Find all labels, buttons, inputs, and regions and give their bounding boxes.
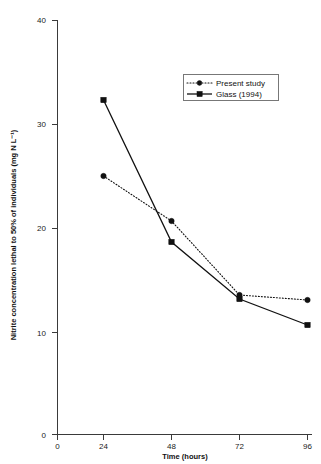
line-chart-canvas: 40 30 20 10 0 0 24 48 72 96 Time (hours)…: [0, 0, 321, 464]
legend-swatch-square-icon: [197, 91, 202, 96]
series-line-present-study: [104, 176, 308, 300]
series-markers-present-study: [101, 173, 310, 302]
y-axis-ticks: [52, 21, 58, 435]
x-axis-title: Time (hours): [162, 452, 208, 461]
legend-label-glass-1994: Glass (1994): [216, 90, 262, 99]
series-markers-glass-1994: [101, 97, 310, 327]
legend-swatch-circle-icon: [197, 81, 202, 86]
legend-label-present-study: Present study: [216, 79, 265, 88]
x-tick-label-0: 0: [55, 442, 60, 451]
y-tick-label-30: 30: [37, 120, 46, 129]
chart-figure: 40 30 20 10 0 0 24 48 72 96 Time (hours)…: [0, 0, 321, 464]
y-tick-label-40: 40: [37, 16, 46, 25]
x-tick-label-96: 96: [303, 442, 312, 451]
series-line-glass-1994: [104, 100, 308, 325]
x-tick-label-48: 48: [167, 442, 176, 451]
y-tick-label-10: 10: [37, 329, 46, 338]
y-tick-label-0: 0: [42, 431, 47, 440]
y-axis-title: Nitrite concentration lethal to 50% of i…: [9, 129, 18, 340]
y-tick-label-20: 20: [37, 224, 46, 233]
chart-legend: Present study Glass (1994): [183, 74, 278, 100]
x-tick-label-72: 72: [235, 442, 244, 451]
x-tick-label-24: 24: [99, 442, 108, 451]
x-axis-ticks: [58, 435, 308, 441]
